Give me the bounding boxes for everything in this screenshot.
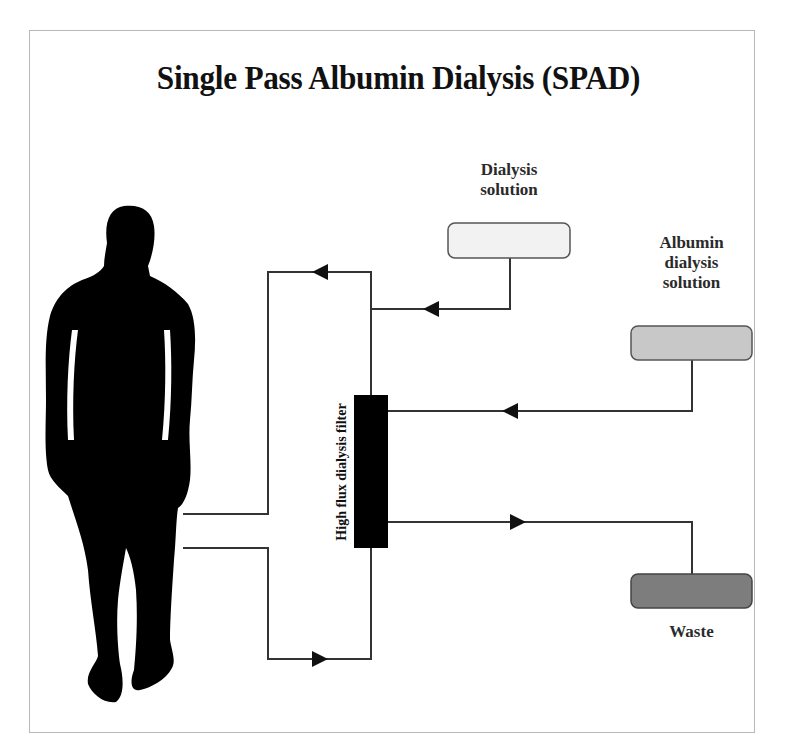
albumin-solution-line <box>388 360 692 411</box>
arrow-right-icon <box>312 651 328 667</box>
label-line: solution <box>448 180 570 200</box>
label-line: Albumin <box>631 233 752 253</box>
albumin-solution-box <box>631 326 752 360</box>
filter-label: High flux dialysis filter <box>334 403 350 540</box>
flow-lines <box>183 258 692 659</box>
label-line: Waste <box>631 622 752 642</box>
diagram-graphics <box>0 0 797 756</box>
arrow-left-icon <box>312 264 328 280</box>
waste-label: Waste <box>631 622 752 642</box>
dialysis-solution-label: Dialysis solution <box>448 160 570 200</box>
diagram-canvas: Single Pass Albumin Dialysis (SPAD) <box>0 0 797 756</box>
label-line: solution <box>631 273 752 293</box>
arrow-left-icon <box>423 301 439 317</box>
dialysis-solution-line <box>371 258 510 309</box>
patient-silhouette-icon <box>46 206 196 703</box>
waste-box <box>631 574 752 608</box>
dialysis-solution-box <box>448 223 570 258</box>
arrow-right-icon <box>510 514 526 530</box>
waste-line <box>388 522 692 574</box>
dialysis-filter <box>354 395 388 548</box>
label-line: Dialysis <box>448 160 570 180</box>
label-line: dialysis <box>631 253 752 273</box>
arrow-left-icon <box>502 403 518 419</box>
albumin-solution-label: Albumin dialysis solution <box>631 233 752 293</box>
outflow-line-bottom <box>183 548 371 659</box>
